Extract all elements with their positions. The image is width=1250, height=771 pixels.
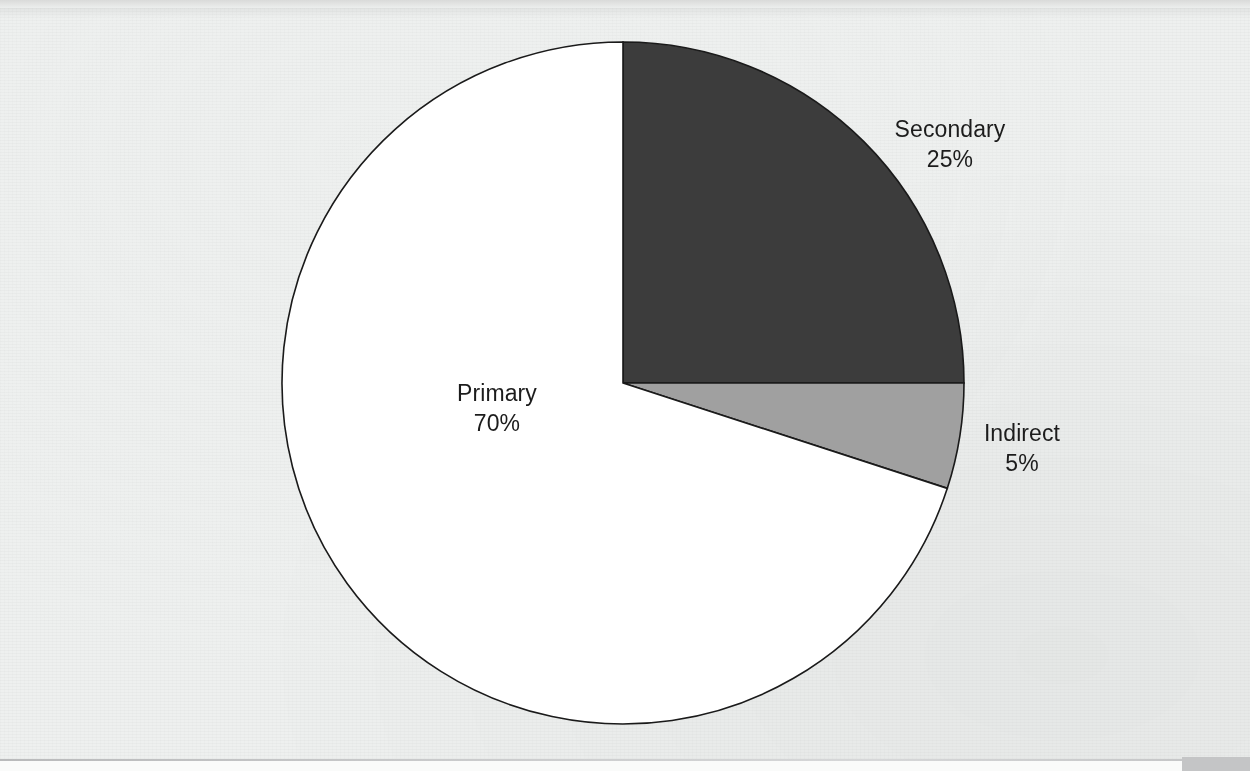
footer-corner-block bbox=[1182, 757, 1250, 771]
pie-chart-svg bbox=[0, 0, 1250, 755]
pie-label-secondary: Secondary 25% bbox=[895, 114, 1006, 174]
pie-label-indirect-name: Indirect bbox=[984, 418, 1060, 448]
scanned-page: Primary 70% Secondary 25% Indirect 5% bbox=[0, 0, 1250, 771]
pie-label-secondary-value: 25% bbox=[895, 144, 1006, 174]
pie-label-indirect: Indirect 5% bbox=[984, 418, 1060, 478]
pie-label-secondary-name: Secondary bbox=[895, 114, 1006, 144]
pie-label-primary-value: 70% bbox=[457, 408, 537, 438]
pie-chart: Primary 70% Secondary 25% Indirect 5% bbox=[0, 0, 1250, 755]
footer-band bbox=[0, 761, 1250, 771]
pie-slice-group bbox=[282, 42, 964, 724]
pie-label-primary: Primary 70% bbox=[457, 378, 537, 438]
pie-label-primary-name: Primary bbox=[457, 378, 537, 408]
pie-slice-secondary bbox=[623, 42, 964, 383]
pie-label-indirect-value: 5% bbox=[984, 448, 1060, 478]
